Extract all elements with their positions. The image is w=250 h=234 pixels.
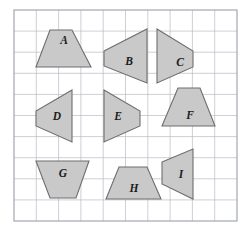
shape-a-label: A <box>59 34 68 46</box>
shape-i-label: I <box>178 168 184 180</box>
shape-c <box>157 29 193 83</box>
shape-h-label: H <box>129 182 140 194</box>
figure-canvas: ABCDEFGHI <box>0 0 250 234</box>
shape-g-label: G <box>59 167 68 179</box>
shape-f-label: F <box>185 109 194 121</box>
shape-i <box>162 149 193 199</box>
shape-e <box>104 90 140 142</box>
shapes-layer: ABCDEFGHI <box>36 29 215 199</box>
shape-b-label: B <box>124 55 133 67</box>
shapes-grid-figure: ABCDEFGHI <box>0 0 250 234</box>
shape-e-label: E <box>113 110 122 122</box>
shape-c-label: C <box>176 56 184 68</box>
shape-d-label: D <box>52 110 62 122</box>
